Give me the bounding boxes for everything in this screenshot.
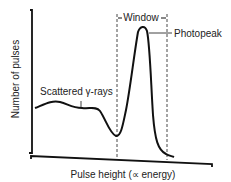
y-axis-label: Number of pulses xyxy=(10,40,21,118)
photopeak-label: Photopeak xyxy=(174,28,223,39)
y-axis xyxy=(29,10,32,153)
scattered-label: Scattered γ-rays xyxy=(40,86,113,97)
window-label: Window xyxy=(123,12,159,23)
gamma-spectrum-diagram: Window Photopeak Scattered γ-rays Pulse … xyxy=(0,0,231,182)
x-axis-label: Pulse height (∝ energy) xyxy=(71,169,176,180)
x-axis xyxy=(31,156,212,167)
